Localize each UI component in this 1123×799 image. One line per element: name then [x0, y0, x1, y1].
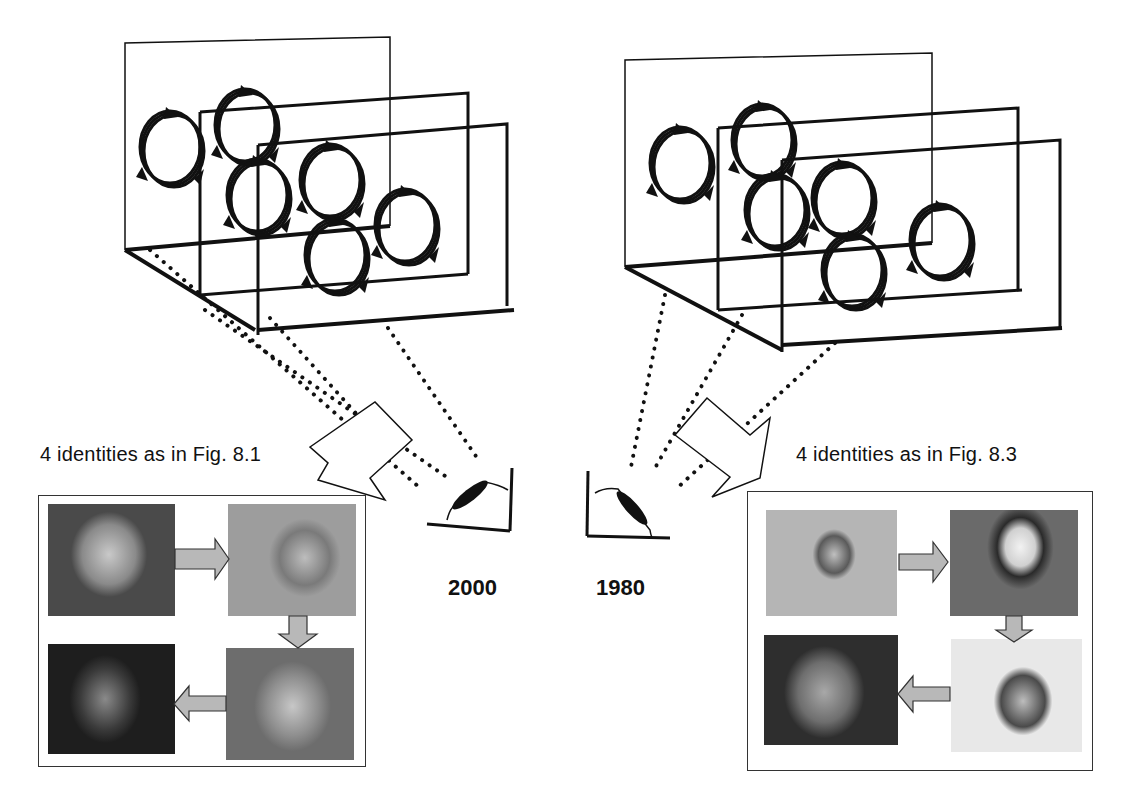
right-block-arrow	[675, 398, 770, 497]
right-identity-panel	[747, 491, 1093, 771]
arrow-right-icon	[175, 539, 229, 579]
left-caption: 4 identities as in Fig. 8.1	[40, 443, 261, 466]
left-identity-panel	[38, 495, 366, 767]
right-caption: 4 identities as in Fig. 8.3	[796, 443, 1017, 466]
year-label-left: 2000	[448, 575, 497, 601]
left-block-arrow	[310, 402, 412, 500]
right-sequence-arrows	[748, 492, 1092, 770]
left-sequence-arrows	[39, 496, 365, 766]
year-label-right: 1980	[596, 575, 645, 601]
arrow-down-icon	[996, 616, 1032, 642]
arrow-left-icon	[898, 676, 950, 712]
arrow-left-icon	[174, 686, 226, 721]
left-observer-icon	[427, 468, 512, 531]
right-observer-icon	[587, 471, 670, 538]
arrow-right-icon	[899, 542, 948, 582]
left-plane-stack	[125, 37, 514, 335]
right-plane-stack	[625, 53, 1062, 352]
arrow-down-icon	[279, 616, 317, 648]
